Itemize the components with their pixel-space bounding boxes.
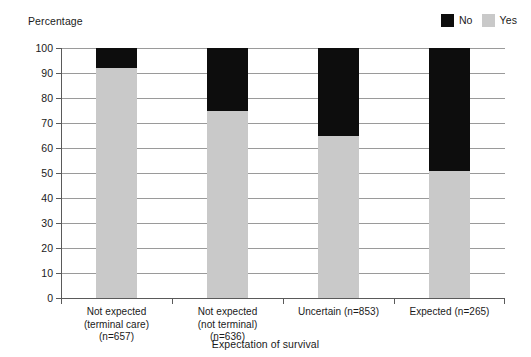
bar-segment-no (96, 48, 137, 68)
stacked-bar (429, 48, 470, 298)
bar-segment-yes (429, 171, 470, 299)
bar-segment-no (207, 48, 248, 111)
y-axis-tick-label: 50 (41, 167, 53, 179)
y-axis-title: Percentage (28, 15, 83, 27)
bar-segment-no (429, 48, 470, 171)
category-label: Expected (n=265) (394, 306, 505, 319)
y-axis-tick-label: 10 (41, 267, 53, 279)
legend-swatch-no (441, 14, 454, 27)
category-label-line: (not terminal) (172, 319, 283, 332)
y-axis-tick-label: 30 (41, 217, 53, 229)
y-axis-tick-label: 70 (41, 117, 53, 129)
y-axis-tick-label: 40 (41, 192, 53, 204)
plot-area: 0102030405060708090100 Not expected(term… (61, 48, 505, 298)
category-label-line: Not expected (61, 306, 172, 319)
y-axis-tick-label: 60 (41, 142, 53, 154)
y-axis-tick-label: 90 (41, 67, 53, 79)
y-axis-tick-label: 100 (35, 42, 53, 54)
bar-segment-no (318, 48, 359, 136)
y-axis-tick-label: 0 (47, 292, 53, 304)
category-tick (394, 298, 395, 304)
category-label-line: Expected (n=265) (394, 306, 505, 319)
chart-legend: No Yes (441, 14, 517, 27)
category-tick (172, 298, 173, 304)
bar-segment-yes (207, 111, 248, 299)
bar-segment-yes (318, 136, 359, 299)
legend-swatch-yes (482, 14, 495, 27)
stacked-bar (318, 48, 359, 298)
stacked-bar (207, 48, 248, 298)
category-label: Uncertain (n=853) (283, 306, 394, 319)
category-tick (61, 298, 62, 304)
bar-segment-yes (96, 68, 137, 298)
category-label-line: (terminal care) (61, 319, 172, 332)
stacked-bar-chart: Percentage No Yes 0102030405060708090100… (0, 0, 531, 357)
x-axis-title: Expectation of survival (0, 338, 531, 350)
category-tick (504, 298, 505, 304)
legend-entry-yes: Yes (482, 14, 517, 27)
stacked-bar (96, 48, 137, 298)
y-axis-line (61, 48, 62, 298)
category-label-line: Uncertain (n=853) (283, 306, 394, 319)
category-tick (283, 298, 284, 304)
legend-label-no: No (459, 14, 473, 27)
y-axis-tick-label: 20 (41, 242, 53, 254)
legend-label-yes: Yes (500, 14, 517, 27)
y-axis-tick-label: 80 (41, 92, 53, 104)
category-label-line: Not expected (172, 306, 283, 319)
legend-entry-no: No (441, 14, 473, 27)
